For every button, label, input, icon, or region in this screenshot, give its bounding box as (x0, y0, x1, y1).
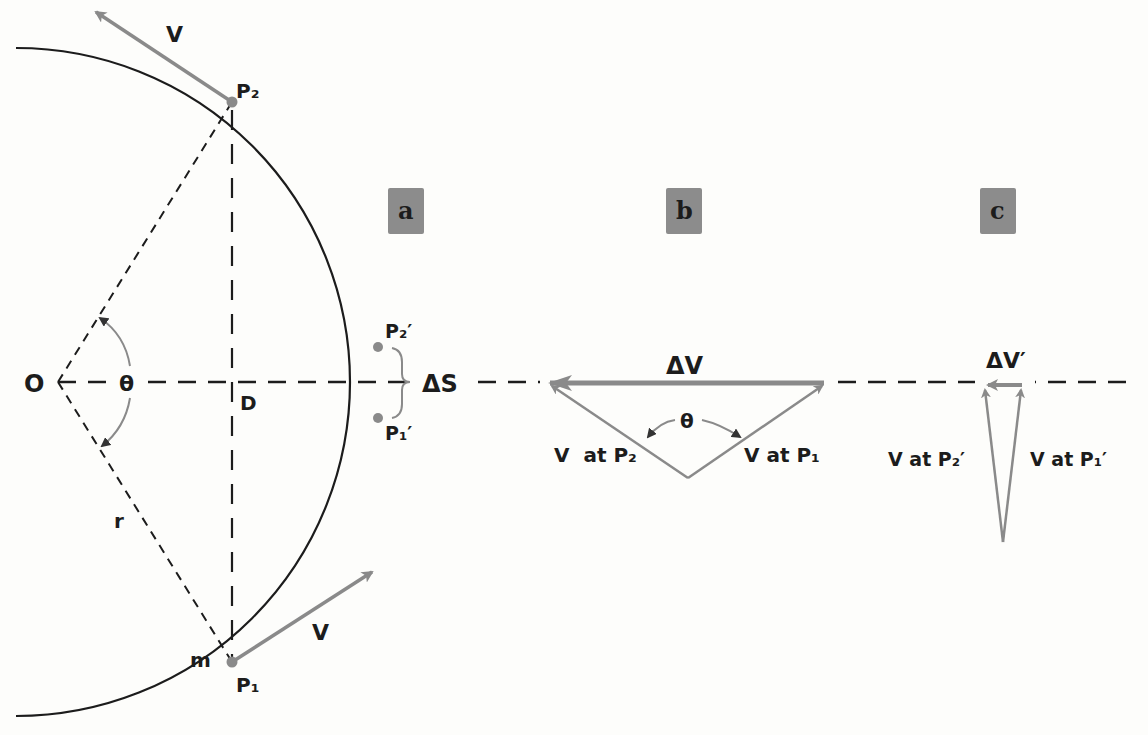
label-delta-v-prime: ΔV′ (986, 348, 1026, 373)
label-v-at-p2-prime: V at P₂′ (888, 448, 965, 470)
label-p2-prime: P₂′ (385, 320, 412, 342)
label-d: D (240, 391, 257, 415)
svg-text:a: a (398, 196, 414, 225)
label-theta-a: θ (119, 371, 134, 396)
theta-arrow-b-right (702, 420, 740, 437)
label-m: m (190, 648, 211, 672)
label-v-at-p2: V at P₂ (554, 443, 637, 467)
circular-motion-diagram: V P₂ O θ D r m P₁ V P₂′ P₁′ ΔS a b c ΔV … (0, 0, 1148, 735)
theta-arrow-upper (100, 318, 130, 366)
theta-arrow-lower (102, 398, 130, 446)
label-p1-prime: P₁′ (385, 422, 412, 444)
panel-label-a: a (388, 188, 424, 234)
label-delta-s: ΔS (422, 370, 458, 398)
label-v-at-p1: V at P₁ (744, 443, 820, 467)
v-at-p2-prime-vector (985, 390, 1003, 542)
radius-to-p1 (58, 382, 232, 662)
label-theta-b: θ (680, 409, 694, 433)
point-p1-prime (373, 413, 383, 423)
panel-label-b: b (666, 188, 702, 234)
v-at-p1-prime-vector (1003, 390, 1021, 542)
theta-arrow-b-left (648, 420, 675, 437)
label-v-at-p1-prime: V at P₁′ (1030, 448, 1107, 470)
label-p1: P₁ (236, 673, 259, 697)
panel-label-c: c (980, 188, 1016, 234)
radius-to-p2 (58, 102, 232, 382)
svg-text:b: b (676, 196, 693, 225)
svg-text:c: c (990, 196, 1005, 225)
label-r: r (114, 509, 124, 533)
velocity-vector-p2 (96, 12, 232, 102)
label-velocity-top: V (166, 22, 183, 47)
label-o: O (24, 370, 44, 398)
label-velocity-bottom: V (312, 620, 329, 645)
label-p2: P₂ (236, 79, 259, 103)
label-delta-v: ΔV (666, 352, 704, 380)
point-p1 (227, 657, 238, 668)
point-p2-prime (373, 342, 383, 352)
